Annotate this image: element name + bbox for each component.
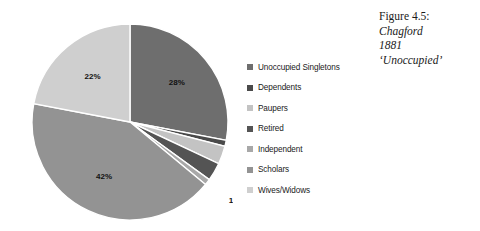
caption-year: 1881 [379,38,479,53]
legend-swatch-icon [247,146,253,152]
pie-chart-svg: 28%1%3%3%1%42%22% [28,22,233,222]
caption-subject: ‘Unoccupied’ [379,53,479,68]
legend-swatch-icon [247,187,253,193]
legend-item-label: Scholars [258,165,289,174]
legend-item: Independent [247,139,367,160]
figure-caption: Figure 4.5: Chagford 1881 ‘Unoccupied’ [379,9,479,67]
pie-slice-label: 42% [96,172,112,181]
legend-item-label: Retired [258,124,284,133]
legend-item: Unoccupied Singletons [247,57,367,78]
legend-item-label: Paupers [258,104,288,113]
legend-item: Retired [247,119,367,140]
legend-swatch-icon [247,85,253,91]
caption-figure-number: Figure 4.5: [379,9,479,24]
legend-item-label: Wives/Widows [258,186,310,195]
legend-swatch-icon [247,126,253,132]
legend-item: Scholars [247,160,367,181]
chart-legend: Unoccupied SingletonsDependentsPaupersRe… [247,57,367,201]
legend-item-label: Unoccupied Singletons [258,63,340,72]
pie-slice-label: 28% [169,78,185,87]
pie-slice-group [32,24,228,220]
legend-swatch-icon [247,167,253,173]
legend-item: Paupers [247,98,367,119]
pie-slice-label: 1% [229,196,233,205]
pie-chart: 28%1%3%3%1%42%22% [28,22,233,222]
legend-swatch-icon [247,105,253,111]
legend-item: Dependents [247,78,367,99]
legend-item-label: Dependents [258,83,301,92]
legend-item: Wives/Widows [247,180,367,201]
pie-slice-label: 22% [84,72,100,81]
caption-place: Chagford [379,24,479,39]
legend-item-label: Independent [258,145,302,154]
legend-swatch-icon [247,64,253,70]
figure-container: 28%1%3%3%1%42%22% Unoccupied SingletonsD… [0,0,480,231]
